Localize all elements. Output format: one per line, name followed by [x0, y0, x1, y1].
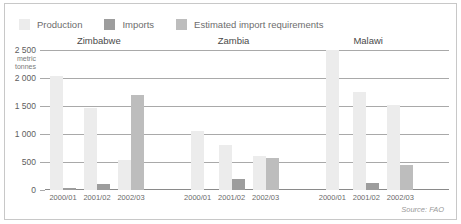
bar[interactable]: [326, 50, 339, 190]
legend-item[interactable]: Production: [19, 19, 82, 30]
legend-item[interactable]: Estimated import requirements: [176, 19, 323, 30]
legend-item[interactable]: Imports: [104, 19, 154, 30]
bar-cluster: [82, 50, 112, 190]
legend-label: Production: [37, 19, 82, 30]
bar-cluster: [183, 50, 213, 190]
x-axis-tick-label: 2001/02: [218, 193, 245, 202]
bar[interactable]: [50, 76, 63, 190]
bar-cluster: [251, 50, 281, 190]
chart-frame: ProductionImportsEstimated import requir…: [4, 3, 457, 220]
y-axis-tick-label: 0: [31, 185, 36, 195]
group-title-row: ZimbabweZambiaMalawi: [45, 35, 449, 48]
x-axis-tick-label: 2001/02: [83, 193, 110, 202]
bar[interactable]: [97, 184, 110, 190]
bar-cluster: [48, 50, 78, 190]
x-axis-tick-label: 2001/02: [353, 193, 380, 202]
bar[interactable]: [118, 160, 131, 190]
y-axis-labels: 05001 0001 5002 0002 500metrictonnes: [5, 44, 43, 194]
bar[interactable]: [232, 179, 245, 190]
y-axis-tick: [40, 50, 45, 51]
chart-screenshot: ProductionImportsEstimated import requir…: [0, 0, 461, 224]
y-axis-unit-line-1: metric: [15, 55, 36, 63]
y-axis-tick-label: 1 500: [15, 101, 36, 111]
y-axis-tick-label: 500: [22, 157, 36, 167]
x-axis-tick-label: 2002/03: [252, 193, 279, 202]
legend-swatch-icon: [104, 19, 115, 30]
y-axis-tick-label: 2 500: [15, 45, 36, 55]
legend-label: Imports: [122, 19, 154, 30]
bar-cluster: [116, 50, 146, 190]
chart-legend: ProductionImportsEstimated import requir…: [19, 17, 345, 31]
y-axis-unit-line-2: tonnes: [15, 63, 36, 71]
group-title: Zambia: [218, 35, 250, 46]
bar[interactable]: [84, 108, 97, 190]
bar[interactable]: [191, 131, 204, 190]
x-axis-tick-label: 2000/01: [49, 193, 76, 202]
y-axis-tick-label: 2 000: [15, 73, 36, 83]
bar-cluster: [317, 50, 347, 190]
bar[interactable]: [400, 165, 413, 190]
y-axis-tick: [40, 106, 45, 107]
bar[interactable]: [253, 156, 266, 190]
bar[interactable]: [131, 95, 144, 190]
y-axis-tick-label: 1 000: [15, 129, 36, 139]
bar[interactable]: [266, 158, 279, 190]
y-axis-tick: [40, 134, 45, 135]
x-axis-tick-label: 2002/03: [387, 193, 414, 202]
bar-cluster: [385, 50, 415, 190]
y-axis-tick: [40, 190, 45, 191]
source-note: Source: FAO: [401, 205, 444, 214]
legend-swatch-icon: [176, 19, 187, 30]
y-axis-tick: [40, 78, 45, 79]
bar-cluster: [217, 50, 247, 190]
y-axis-unit-label: metrictonnes: [15, 55, 36, 71]
y-axis-tick: [40, 162, 45, 163]
x-axis-labels: 2000/012001/022002/032000/012001/022002/…: [45, 193, 449, 205]
bar[interactable]: [63, 188, 76, 190]
bar[interactable]: [219, 145, 232, 190]
group-title: Malawi: [353, 35, 383, 46]
x-axis-tick-label: 2002/03: [117, 193, 144, 202]
bar[interactable]: [366, 183, 379, 190]
legend-swatch-icon: [19, 19, 30, 30]
bar[interactable]: [353, 92, 366, 190]
group-title: Zimbabwe: [77, 35, 121, 46]
plot-area: [45, 50, 449, 190]
x-axis-tick-label: 2000/01: [319, 193, 346, 202]
legend-label: Estimated import requirements: [194, 19, 323, 30]
bar-cluster: [351, 50, 381, 190]
bar[interactable]: [387, 105, 400, 190]
x-axis-tick-label: 2000/01: [184, 193, 211, 202]
